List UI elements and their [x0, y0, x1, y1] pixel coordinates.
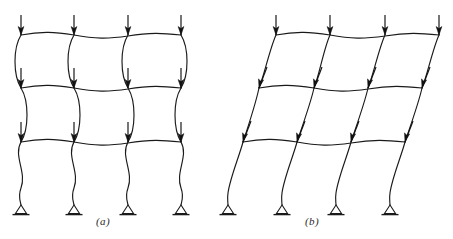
load-arrow [422, 67, 431, 88]
load-arrow [297, 121, 306, 142]
panel-b-column-line-2 [282, 35, 330, 205]
panel-a-beams [21, 32, 181, 145]
pin-support [382, 205, 399, 215]
pin-support [13, 205, 30, 215]
beam-level-2 [21, 85, 181, 91]
pin-support [66, 205, 83, 215]
figure-root: (a) (b) [0, 0, 453, 239]
beam-level-1 [21, 32, 181, 38]
load-arrow [125, 15, 131, 35]
beam-level-3 [243, 139, 405, 145]
column-segment [228, 142, 243, 205]
load-arrow [178, 15, 184, 35]
load-arrow [314, 67, 323, 88]
panel-b-column-line-3 [336, 35, 385, 205]
column-segment [68, 35, 74, 88]
column-segment [179, 142, 183, 205]
pin-support [274, 205, 291, 215]
beam-level-2 [259, 85, 422, 91]
frame-buckling-diagram [0, 0, 453, 239]
panel-a-supports [13, 205, 190, 215]
beam-level-1 [276, 32, 439, 38]
pin-support [173, 205, 190, 215]
load-arrow [259, 67, 268, 88]
load-arrow [18, 15, 24, 35]
panel-a-column-line-2 [68, 35, 80, 205]
panel-a-column-line-4 [175, 35, 187, 205]
panel-b-column-line-1 [228, 35, 276, 205]
panel-a-caption: (a) [96, 215, 110, 227]
load-arrow [351, 121, 360, 142]
load-arrow [243, 121, 252, 142]
panel-a-braced-frame [13, 15, 190, 215]
pin-support [220, 205, 237, 215]
beam-level-3 [21, 139, 181, 145]
column-segment [243, 88, 259, 142]
load-arrow [368, 67, 377, 88]
load-arrow [71, 15, 77, 35]
panel-b-caption: (b) [305, 215, 319, 227]
load-arrow [436, 15, 442, 35]
column-segment [390, 142, 405, 205]
column-segment [15, 35, 21, 88]
load-arrow [382, 15, 388, 35]
column-segment [18, 142, 22, 205]
column-segment [122, 35, 128, 88]
column-segment [125, 142, 129, 205]
panel-b-column-line-4 [390, 35, 439, 205]
pin-support [120, 205, 137, 215]
panel-a-column-line-1 [15, 35, 27, 205]
panel-a-column-line-3 [122, 35, 134, 205]
column-segment [336, 142, 351, 205]
load-arrow [327, 15, 333, 35]
panel-b-unbraced-frame [220, 15, 442, 215]
column-segment [282, 142, 297, 205]
column-segment [314, 35, 330, 88]
column-segment [71, 142, 75, 205]
load-arrow [405, 121, 414, 142]
pin-support [328, 205, 345, 215]
load-arrow [273, 15, 279, 35]
column-segment [181, 35, 187, 88]
panel-b-supports [220, 205, 399, 215]
